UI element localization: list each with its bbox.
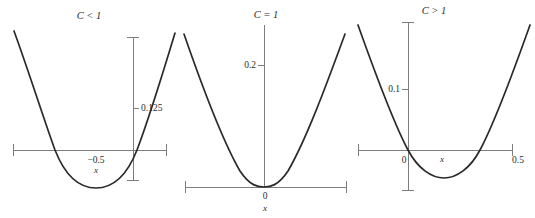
y-tick-label: 0.1 [388,84,400,94]
plot-c-less-than-1: C < 1 0.125 −0.5 x [0,0,178,218]
parabola-curve [358,25,530,178]
x-tick-label: −0.5 [87,155,104,165]
x-tick-label-half: 0.5 [512,155,524,165]
panel-c-equals-1: C = 1 0.2 0 x [178,0,356,218]
panel-title: C > 1 [422,5,447,16]
x-axis-label: x [262,203,267,213]
x-tick-label: 0 [263,191,268,201]
figure-parabolas-discriminant: C < 1 0.125 −0.5 x C = 1 0.2 [0,0,535,218]
plot-c-greater-than-1: C > 1 0.1 0 0.5 x [356,0,535,218]
x-axis-label: x [439,154,444,164]
y-tick-label: 0.2 [244,60,256,70]
panel-title: C < 1 [77,10,102,21]
panel-c-greater-than-1: C > 1 0.1 0 0.5 x [356,0,535,218]
panel-title: C = 1 [254,9,279,20]
panel-c-less-than-1: C < 1 0.125 −0.5 x [0,0,178,218]
x-tick-label-origin: 0 [402,155,407,165]
x-axis [358,144,512,156]
plot-c-equals-1: C = 1 0.2 0 x [178,0,356,218]
x-axis-label: x [93,165,98,175]
